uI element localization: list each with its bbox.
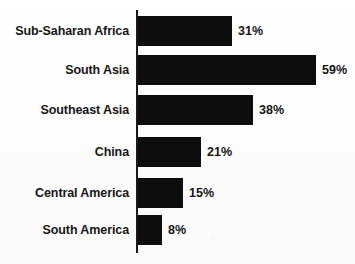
category-label: South America <box>43 215 129 245</box>
value-label: 59% <box>322 55 347 85</box>
bar-central-america <box>138 178 183 208</box>
chart-row: Sub-Saharan Africa 31% <box>0 16 355 46</box>
chart-row: China 21% <box>0 137 355 167</box>
category-label: Sub-Saharan Africa <box>15 16 129 46</box>
chart-row: South America 8% <box>0 215 355 245</box>
bar-south-america <box>138 215 162 245</box>
value-label: 21% <box>207 137 232 167</box>
chart-row: South Asia 59% <box>0 55 355 85</box>
chart-row: Central America 15% <box>0 178 355 208</box>
bar-chart: Sub-Saharan Africa 31% South Asia 59% So… <box>0 0 355 264</box>
category-label: China <box>95 137 129 167</box>
bar-southeast-asia <box>138 95 253 125</box>
category-label: South Asia <box>65 55 129 85</box>
plot-area: Sub-Saharan Africa 31% South Asia 59% So… <box>0 0 355 264</box>
value-label: 8% <box>168 215 186 245</box>
category-label: Central America <box>35 178 129 208</box>
chart-row: Southeast Asia 38% <box>0 95 355 125</box>
bar-sub-saharan-africa <box>138 16 232 46</box>
bar-south-asia <box>138 55 316 85</box>
value-label: 15% <box>189 178 214 208</box>
bar-china <box>138 137 201 167</box>
value-label: 38% <box>259 95 284 125</box>
category-label: Southeast Asia <box>41 95 129 125</box>
value-label: 31% <box>238 16 263 46</box>
